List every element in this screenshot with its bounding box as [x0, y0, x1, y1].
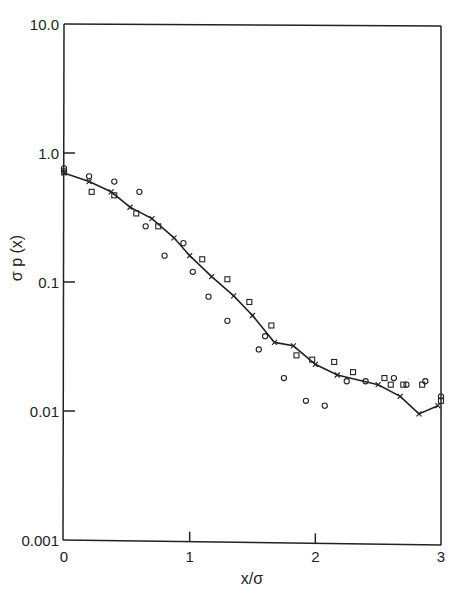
chart: 10.01.00.10.010.001 0123 x/σ σ p (x) [0, 0, 463, 593]
square-marker [200, 257, 205, 262]
circle-marker [181, 241, 186, 246]
y-tick-label: 0.1 [38, 274, 59, 291]
x-tick-label: 3 [437, 548, 445, 565]
circle-marker [206, 294, 211, 299]
circle-marker [190, 269, 195, 274]
y-tick-label: 0.01 [30, 403, 59, 420]
circle-marker [404, 382, 409, 387]
circle-marker [87, 174, 92, 179]
circle-marker [143, 224, 148, 229]
series-line [62, 170, 441, 416]
square-marker [269, 323, 274, 328]
circle-marker [391, 375, 396, 380]
x-tick-label: 2 [311, 548, 319, 565]
circle-marker [112, 179, 117, 184]
x-axis-label: x/σ [241, 570, 263, 587]
square-marker [332, 359, 337, 364]
square-marker [294, 353, 299, 358]
square-marker [225, 277, 230, 282]
plot-frame [63, 24, 441, 545]
square-marker [89, 189, 94, 194]
circle-marker [225, 318, 230, 323]
cross-marker [250, 313, 255, 318]
cross-marker [149, 216, 154, 221]
series-squares [62, 169, 444, 403]
cross-marker [209, 274, 214, 279]
y-axis: 10.01.00.10.010.001 [21, 16, 75, 549]
square-marker [247, 299, 252, 304]
circle-marker [322, 403, 327, 408]
x-axis: 0123 [60, 532, 445, 565]
square-marker [382, 376, 387, 381]
y-tick-label: 0.001 [21, 532, 59, 549]
square-marker [351, 370, 356, 375]
circle-marker [137, 189, 142, 194]
circle-marker [281, 375, 286, 380]
cross-marker [398, 394, 403, 399]
series-circles [61, 166, 443, 408]
circle-marker [262, 334, 267, 339]
cross-marker [171, 235, 176, 240]
circle-marker [256, 347, 261, 352]
y-tick-label: 10.0 [30, 16, 59, 33]
x-tick-label: 1 [185, 548, 193, 565]
cross-marker [231, 293, 236, 298]
circle-marker [162, 253, 167, 258]
square-marker [388, 382, 393, 387]
circle-marker [303, 398, 308, 403]
cross-marker [187, 253, 192, 258]
x-tick-label: 0 [60, 548, 68, 565]
circle-marker [344, 379, 349, 384]
circle-marker [423, 379, 428, 384]
y-axis-label: σ p (x) [8, 235, 25, 281]
y-tick-label: 1.0 [38, 145, 59, 162]
